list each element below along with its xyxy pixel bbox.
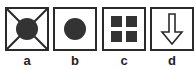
option-a-box [5,7,49,51]
option-b-box [53,7,97,51]
down-arrow-icon [152,9,192,49]
option-a-label: a [5,54,49,67]
four-squares-grid-icon [104,9,144,49]
option-d[interactable]: d [150,7,194,70]
option-c[interactable]: c [102,7,146,70]
option-b-label: b [53,54,97,67]
option-d-box [150,7,194,51]
option-d-label: d [150,54,194,67]
option-a[interactable]: a [5,7,49,70]
option-c-label: c [102,54,146,67]
filled-circle-icon [55,9,95,49]
option-c-box [102,7,146,51]
circle-with-x-icon [7,9,47,49]
option-b[interactable]: b [53,7,97,70]
